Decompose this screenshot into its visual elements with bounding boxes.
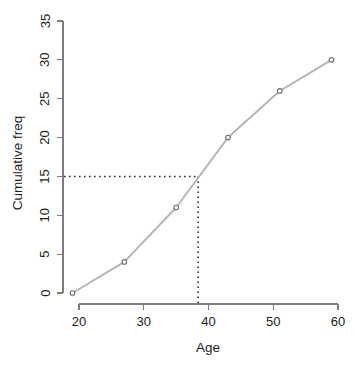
- x-axis: 2030405060: [72, 304, 345, 329]
- y-tick-label: 0: [38, 289, 53, 296]
- cumulative-frequency-chart: 05101520253035 2030405060 Age Cumulative…: [0, 0, 360, 368]
- data-point-marker: [70, 291, 75, 296]
- y-tick-label: 5: [38, 251, 53, 258]
- y-tick-label: 10: [38, 208, 53, 222]
- data-point-marker: [122, 260, 127, 265]
- y-axis-title: Cumulative freq: [10, 116, 25, 211]
- data-point-marker: [329, 58, 334, 63]
- y-tick-label: 35: [38, 14, 53, 28]
- cumulative-frequency-line: [73, 60, 332, 293]
- x-axis-title: Age: [196, 340, 220, 355]
- data-point-marker: [277, 89, 282, 94]
- chart-canvas: 05101520253035 2030405060 Age Cumulative…: [0, 0, 360, 368]
- y-axis: 05101520253035: [38, 14, 64, 297]
- x-axis-tick-labels: 2030405060: [72, 314, 345, 329]
- x-tick-label: 20: [72, 314, 86, 329]
- x-tick-label: 30: [137, 314, 151, 329]
- data-point-marker: [226, 135, 231, 140]
- y-tick-label: 15: [38, 169, 53, 183]
- y-axis-ticks: [57, 21, 63, 293]
- y-tick-label: 25: [38, 91, 53, 105]
- y-axis-tick-labels: 05101520253035: [38, 14, 53, 297]
- data-point-marker: [174, 205, 179, 210]
- x-tick-label: 60: [331, 314, 345, 329]
- y-tick-label: 20: [38, 130, 53, 144]
- x-tick-label: 50: [266, 314, 280, 329]
- y-tick-label: 30: [38, 53, 53, 67]
- median-reference-lines: [64, 176, 198, 304]
- x-axis-ticks: [79, 304, 338, 310]
- x-tick-label: 40: [201, 314, 215, 329]
